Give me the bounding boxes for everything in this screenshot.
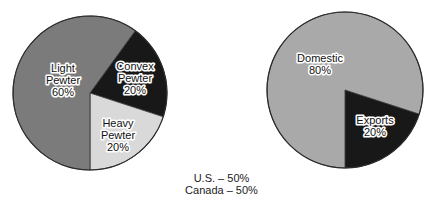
footnote: U.S. – 50% Canada – 50%: [0, 172, 429, 196]
footnote-canada-share: Canada – 50%: [14, 184, 429, 196]
pewter-type-pie-chart: ConvexPewter20%HeavyPewter20%LightPewter…: [13, 16, 167, 170]
market-pie-chart: Exports20%Domestic80%: [267, 12, 423, 168]
footnote-us-share: U.S. – 50%: [14, 172, 429, 184]
